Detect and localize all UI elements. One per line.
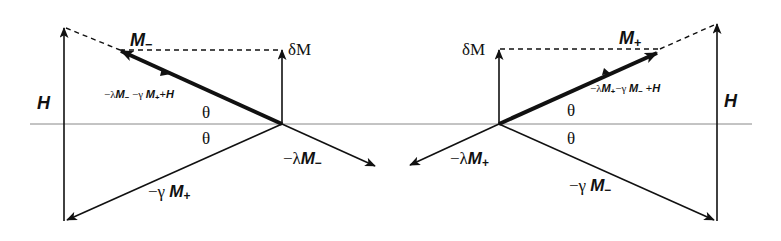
lr-p2: −γ [129, 88, 146, 100]
right-h-label: H [724, 92, 737, 110]
rg-m: M [590, 176, 604, 195]
left-lambda-label: −λM− [283, 150, 322, 170]
left-gamma-label: −γ M+ [148, 183, 190, 203]
left-theta-upper: θ [202, 104, 210, 121]
right-theta-lower: θ [567, 130, 575, 147]
rl-sub: + [482, 156, 489, 170]
lr-p1: −λ [104, 88, 116, 100]
rr-p2: −γ [615, 82, 629, 94]
right-lambda-label: −λM+ [450, 150, 489, 170]
rg-prefix: −γ [569, 176, 590, 195]
left-h-label: H [37, 94, 50, 112]
right-dashed-diag [660, 25, 714, 49]
lg-sub: + [184, 189, 191, 203]
rr-m1: M [602, 82, 611, 94]
left-resultant-label: −λM− −γ M++H [104, 89, 174, 102]
right-resultant-midarrow [602, 68, 611, 75]
ll-sub: − [315, 156, 322, 170]
rr-p3: + [643, 82, 652, 94]
right-m-text: M [619, 28, 634, 48]
left-dashed-diag [66, 28, 120, 50]
left-m-text: M [130, 30, 145, 50]
left-deltaM-text: δM [288, 40, 311, 59]
left-m-minus-label: M− [130, 31, 152, 52]
lr-m1: M [116, 88, 125, 100]
ll-prefix: −λ [283, 149, 301, 168]
rl-prefix: −λ [450, 149, 468, 168]
lg-prefix: −γ [148, 182, 169, 201]
left-m-sub: − [145, 38, 152, 52]
right-deltaM-label: δM [462, 41, 485, 58]
lg-m: M [169, 182, 183, 201]
right-gamma-arrow [499, 124, 714, 220]
right-m-sub: + [634, 36, 641, 50]
lr-h: H [166, 88, 174, 100]
rg-sub: − [605, 183, 612, 197]
left-theta-lower: θ [202, 130, 210, 147]
lr-m2: M [146, 88, 155, 100]
right-gamma-label: −γ M− [569, 177, 611, 197]
left-deltaM-label: δM [288, 41, 311, 58]
right-theta-upper: θ [567, 102, 575, 119]
right-resultant-label: −λM+−γ M− +H [590, 83, 660, 96]
left-gamma-arrow [67, 124, 282, 220]
rr-m2: M [629, 82, 638, 94]
vector-diagram [0, 0, 781, 241]
ll-m: M [301, 149, 315, 168]
rl-m: M [468, 149, 482, 168]
rr-p1: −λ [590, 82, 602, 94]
right-diagram [410, 24, 717, 221]
right-deltaM-text: δM [462, 40, 485, 59]
rr-h: H [652, 82, 660, 94]
right-m-plus-label: M+ [619, 29, 641, 50]
